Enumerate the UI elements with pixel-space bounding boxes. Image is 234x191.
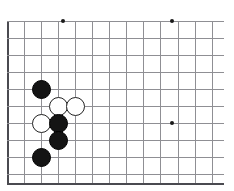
black-stone-1 — [32, 80, 51, 99]
white-stone-2 — [66, 97, 85, 116]
go-board-diagram — [0, 0, 234, 191]
black-stone-4 — [32, 148, 51, 167]
board-stones — [0, 0, 234, 191]
black-stone-2 — [49, 114, 68, 133]
black-stone-3 — [49, 131, 68, 150]
white-stone-3 — [32, 114, 51, 133]
white-stone-1 — [49, 97, 68, 116]
